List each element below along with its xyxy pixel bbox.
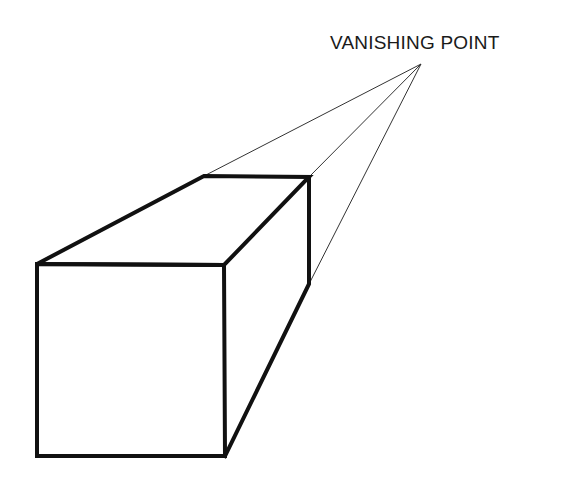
box-top-face xyxy=(37,176,309,265)
guide-line-top-right xyxy=(309,64,421,177)
box-front-face xyxy=(37,264,225,456)
vanishing-point-label: VANISHING POINT xyxy=(330,32,499,54)
guide-line-top-left xyxy=(204,64,421,176)
perspective-diagram xyxy=(0,0,562,483)
guide-line-bottom-right xyxy=(309,64,421,284)
box xyxy=(37,176,309,456)
